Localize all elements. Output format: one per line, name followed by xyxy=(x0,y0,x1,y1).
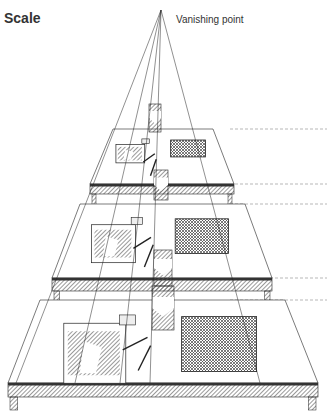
eraser xyxy=(131,217,142,224)
perspective-scene xyxy=(0,0,327,414)
notebook xyxy=(171,140,206,157)
table-leg xyxy=(308,397,316,410)
table-edge xyxy=(8,383,318,386)
notebook xyxy=(182,317,257,372)
eraser xyxy=(142,139,149,144)
table-leg xyxy=(10,397,18,410)
table-leg xyxy=(228,194,232,205)
table-leg xyxy=(92,194,96,205)
eraser xyxy=(120,315,136,325)
notebook xyxy=(175,219,228,254)
